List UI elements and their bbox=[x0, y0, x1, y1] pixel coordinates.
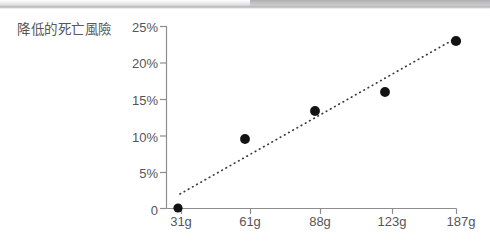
data-point-187g bbox=[451, 36, 461, 46]
chart-figure: 降低的死亡風險 25% 20% 15% 10% 5% 0 31g 61g 88g… bbox=[0, 0, 490, 250]
data-point-61g bbox=[240, 134, 250, 144]
trendline bbox=[180, 37, 458, 194]
data-points bbox=[173, 36, 461, 213]
y-axis-ticks bbox=[160, 27, 167, 209]
data-point-31g bbox=[173, 203, 182, 212]
data-point-88g bbox=[310, 106, 320, 116]
x-axis-ticks bbox=[182, 209, 457, 215]
plot-area bbox=[0, 0, 490, 250]
data-point-123g bbox=[380, 87, 390, 97]
